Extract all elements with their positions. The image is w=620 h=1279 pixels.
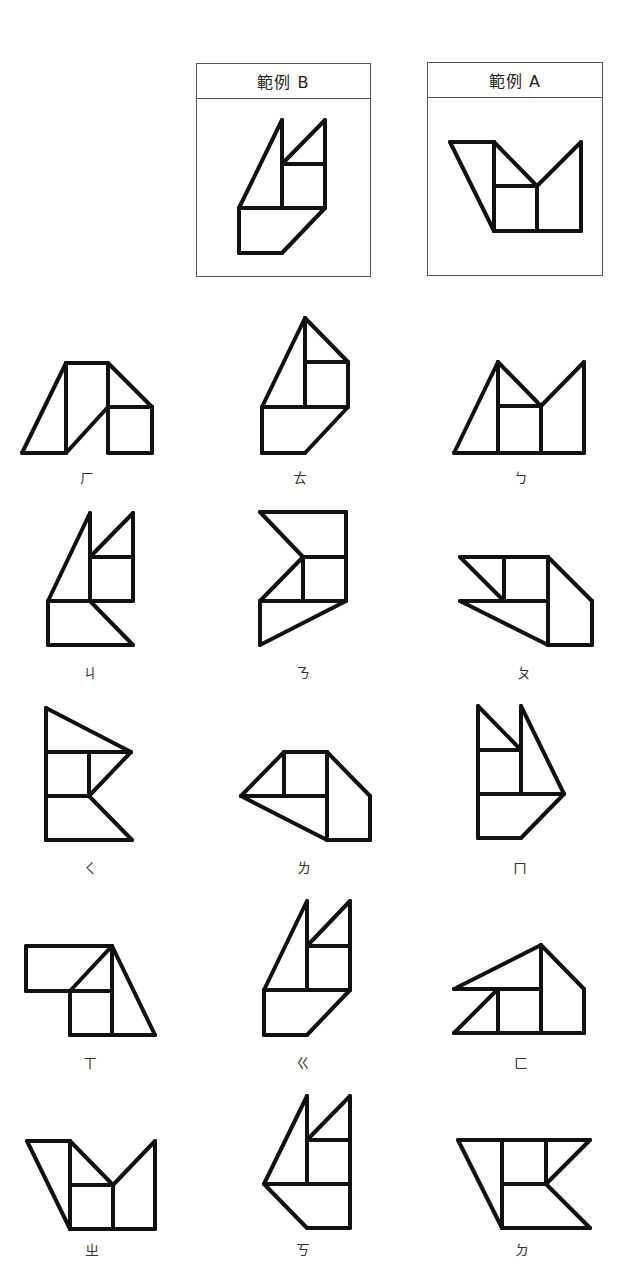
- figure-label: ㄎ: [273, 1242, 333, 1258]
- figure-label: ㄏ: [57, 470, 117, 486]
- tangram-figure: [454, 945, 584, 1033]
- example-figure-b: [239, 120, 325, 253]
- tangram-figure: [460, 557, 592, 645]
- figure-label: ㄒ: [60, 1055, 120, 1071]
- figure-label: ㄓ: [62, 1242, 122, 1258]
- figure-label: ㄉ: [492, 1242, 552, 1258]
- tangram-figure: [264, 1096, 350, 1228]
- figure-label: ㄇ: [490, 860, 550, 876]
- tangram-figure: [241, 752, 370, 840]
- figure-label: ㄅ: [491, 470, 551, 486]
- figure-label: ㄈ: [491, 1055, 551, 1071]
- tangram-figure: [264, 901, 350, 1035]
- figure-label: ㄐ: [60, 665, 120, 681]
- tangram-figure: [478, 706, 564, 838]
- tangram-figure: [454, 362, 584, 453]
- tangram-figure: [22, 363, 152, 453]
- tangram-figure: [48, 513, 133, 645]
- example-figure-a: [450, 142, 581, 231]
- figure-label: ㄍ: [273, 1055, 333, 1071]
- tangram-figure: [26, 946, 155, 1035]
- tangram-figure: [260, 512, 346, 645]
- tangram-figure: [262, 318, 348, 453]
- figure-label: ㄆ: [494, 665, 554, 681]
- tangram-figure: [27, 1141, 155, 1229]
- tangram-figure: [458, 1140, 590, 1228]
- tangram-figure: [46, 708, 132, 840]
- tangram-figures-canvas: [0, 0, 620, 1279]
- figure-label: ㄌ: [274, 860, 334, 876]
- figure-label: ㄋ: [273, 665, 333, 681]
- figure-label: ㄑ: [60, 860, 120, 876]
- figure-label: ㄊ: [270, 470, 330, 486]
